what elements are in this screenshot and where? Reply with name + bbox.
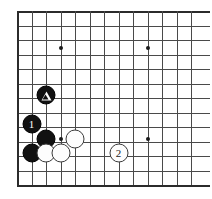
go-board-diagram: 12 bbox=[0, 0, 212, 199]
triangle-marker-inner-icon bbox=[43, 95, 49, 100]
stone-white-a[interactable] bbox=[66, 130, 85, 149]
stone-white-c[interactable] bbox=[51, 144, 70, 163]
grid-line-vertical-6 bbox=[104, 11, 105, 185]
stone-white-2[interactable]: 2 bbox=[109, 144, 128, 163]
stone-black-triangle[interactable] bbox=[37, 86, 56, 105]
grid-line-vertical-0 bbox=[17, 11, 19, 185]
triangle-marker-icon bbox=[41, 92, 51, 101]
grid-line-horizontal-12 bbox=[17, 185, 210, 187]
grid-line-vertical-5 bbox=[90, 11, 91, 185]
grid-line-vertical-11 bbox=[177, 11, 178, 185]
grid-line-vertical-9 bbox=[148, 11, 149, 185]
stone-move-number: 1 bbox=[29, 119, 35, 130]
star-point-upper-left bbox=[59, 46, 63, 50]
grid-line-vertical-10 bbox=[162, 11, 163, 185]
grid-line-vertical-8 bbox=[133, 11, 134, 185]
grid-line-vertical-12 bbox=[191, 11, 192, 185]
star-point-lower-left bbox=[59, 137, 63, 141]
stone-move-number: 2 bbox=[116, 148, 122, 159]
star-point-upper-right bbox=[146, 46, 150, 50]
stone-black-1[interactable]: 1 bbox=[22, 115, 41, 134]
grid-line-vertical-4 bbox=[75, 11, 76, 185]
star-point-lower-right bbox=[146, 137, 150, 141]
